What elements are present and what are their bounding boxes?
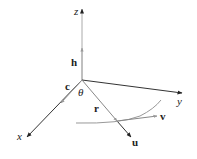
y-axis [82,80,182,93]
y-axis-label: y [177,96,182,107]
x-axis-label: x [17,131,22,142]
u-vector [117,121,131,137]
h-vector-label: h [71,57,77,68]
r-vector-label: r [94,103,99,114]
z-axis-label: z [74,6,78,17]
theta-angle-label: θ [78,87,83,98]
vector-diagram [0,0,197,159]
v-vector-label: v [160,111,166,122]
trajectory-curve [76,100,161,123]
c-vector-label: c [65,81,70,92]
u-vector-label: u [132,137,138,148]
r-vector [82,80,117,121]
